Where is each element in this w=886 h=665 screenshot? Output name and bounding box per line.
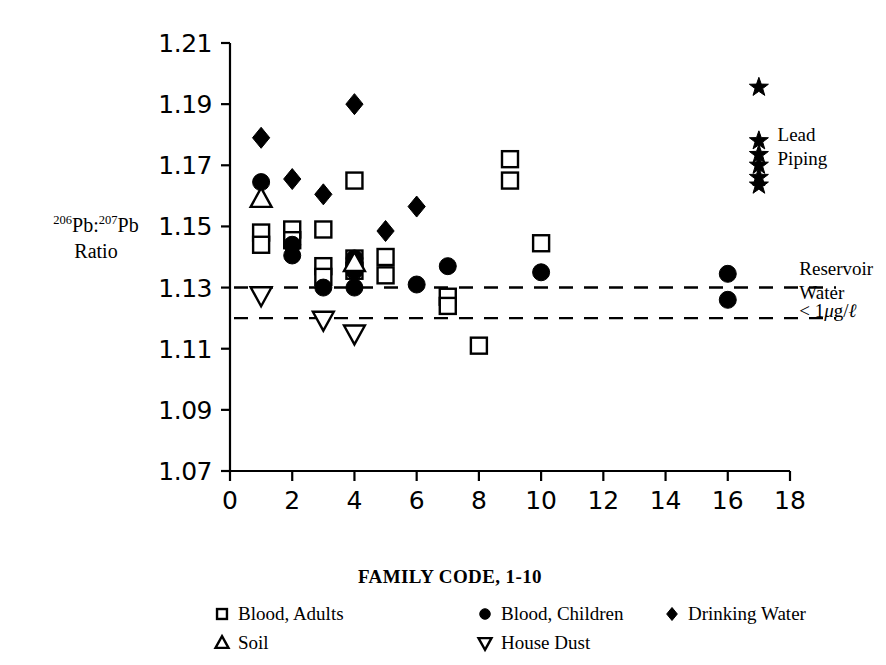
legend-label-4: Drinking Water — [688, 603, 807, 624]
y-axis-title-sup-207: 207 — [99, 213, 118, 227]
plot-annotations: LeadPipingReservoirWater< 1μg/ℓ — [778, 124, 874, 321]
y-axis-title-sup-206: 206 — [53, 213, 72, 227]
series-lead-piping — [749, 77, 768, 193]
series-house-dust — [251, 287, 365, 344]
data-point — [377, 221, 394, 242]
y-tick-label-0: 1.07 — [158, 457, 212, 486]
legend-label-0: Blood, Adults — [238, 603, 344, 624]
x-tick-label-2: 4 — [346, 486, 362, 515]
y-tick-labels: 1.071.091.111.131.151.171.191.21 — [158, 29, 212, 486]
y-tick-label-5: 1.17 — [158, 151, 212, 180]
y-tick-label-7: 1.21 — [158, 29, 212, 58]
data-point — [749, 175, 768, 193]
data-point — [378, 267, 394, 283]
data-point — [344, 326, 365, 345]
data-point — [719, 265, 736, 282]
y-axis-title-ratio: Ratio — [74, 240, 117, 262]
data-point — [408, 276, 425, 293]
series-drinking-water — [253, 94, 426, 242]
y-tick-label-3: 1.13 — [158, 274, 212, 303]
annotation-lead-piping-line-1: Piping — [778, 148, 828, 169]
data-point — [315, 184, 332, 205]
legend-entry-soil[interactable]: Soil — [216, 632, 269, 653]
y-tick-label-6: 1.19 — [158, 90, 212, 119]
x-tick-label-9: 18 — [774, 486, 806, 515]
annotation-reservoir-water-conc: < 1μg/ℓ — [799, 300, 856, 321]
x-tick-label-1: 2 — [284, 486, 300, 515]
data-point — [408, 196, 425, 217]
data-point — [749, 77, 768, 95]
y-axis-title-pb: Pb — [118, 214, 139, 236]
x-tick-label-8: 16 — [712, 486, 744, 515]
data-point — [378, 249, 394, 265]
legend-label-1: Soil — [238, 632, 269, 653]
x-tick-labels: 024681012141618 — [222, 486, 806, 515]
legend-marker-filled-diamond — [667, 607, 678, 620]
data-point — [346, 94, 363, 115]
legend-entry-house-dust[interactable]: House Dust — [479, 632, 591, 653]
chart-canvas: 1.071.091.111.131.151.171.191.21 0246810… — [0, 0, 886, 665]
legend-label-2: Blood, Children — [501, 603, 624, 624]
x-tick-label-6: 12 — [587, 486, 619, 515]
data-point — [284, 247, 301, 264]
x-axis-title: FAMILY CODE, 1-10 — [358, 566, 542, 587]
data-point — [533, 264, 550, 281]
data-point — [440, 298, 456, 314]
legend-entry-blood-adults[interactable]: Blood, Adults — [217, 603, 344, 624]
legend-marker-open-triangle-up — [216, 636, 229, 648]
data-point — [502, 173, 518, 189]
svg-text:206Pb:207Pb: 206Pb:207Pb — [53, 213, 138, 236]
data-point — [719, 291, 736, 308]
data-point — [253, 127, 270, 148]
data-point — [251, 188, 272, 207]
legend-marker-open-triangle-down — [479, 638, 492, 650]
annotation-lead-piping-line-0: Lead — [778, 124, 816, 145]
data-point — [315, 279, 332, 296]
legend-entry-blood-children[interactable]: Blood, Children — [480, 603, 624, 624]
data-point — [502, 151, 518, 167]
legend: Blood, AdultsSoilBlood, ChildrenHouse Du… — [216, 603, 807, 653]
data-point — [253, 237, 269, 253]
axes — [221, 43, 790, 481]
y-axis-title-pb-colon: Pb: — [72, 214, 99, 236]
annotation-reservoir-water-line-0: Reservoir — [799, 258, 874, 279]
x-tick-label-0: 0 — [222, 486, 238, 515]
data-point — [533, 235, 549, 251]
y-axis-title: 206Pb:207Pb Ratio — [53, 213, 138, 262]
data-point — [284, 169, 301, 190]
data-point — [346, 173, 362, 189]
x-tick-label-4: 8 — [471, 486, 487, 515]
data-point — [439, 258, 456, 275]
data-point — [471, 338, 487, 354]
x-tick-label-7: 14 — [650, 486, 682, 515]
legend-marker-filled-circle — [480, 609, 491, 620]
data-points — [251, 77, 769, 353]
legend-label-3: House Dust — [501, 632, 591, 653]
legend-marker-open-square — [217, 609, 227, 619]
legend-entry-drinking-water[interactable]: Drinking Water — [667, 603, 807, 624]
data-point — [346, 279, 363, 296]
scatter-plot-figure: 1.071.091.111.131.151.171.191.21 0246810… — [0, 0, 886, 665]
y-tick-label-2: 1.11 — [158, 335, 212, 364]
data-point — [251, 287, 272, 306]
data-point — [313, 312, 334, 331]
y-tick-label-1: 1.09 — [158, 396, 212, 425]
x-tick-label-3: 6 — [409, 486, 425, 515]
axis-spines — [230, 43, 790, 471]
x-tick-label-5: 10 — [525, 486, 557, 515]
data-point — [315, 221, 331, 237]
y-tick-label-4: 1.15 — [158, 212, 212, 241]
